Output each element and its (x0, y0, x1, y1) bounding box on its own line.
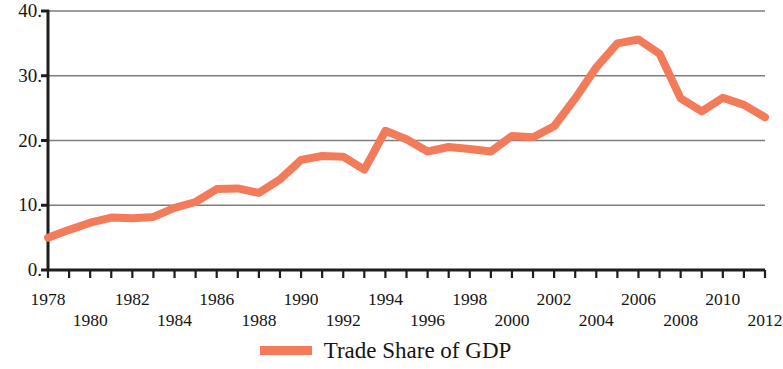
x-axis-label-1978: 1978 (31, 291, 66, 309)
x-axis-label-2006: 2006 (621, 291, 656, 309)
x-axis-label-2002: 2002 (537, 291, 572, 309)
x-axis-label-2012: 2012 (748, 312, 783, 330)
x-axis-label-2000: 2000 (494, 312, 529, 330)
x-axis-label-1992: 1992 (326, 312, 361, 330)
x-axis-label-1984: 1984 (157, 312, 192, 330)
x-axis-label-1980: 1980 (73, 312, 108, 330)
x-axis-label-2010: 2010 (705, 291, 740, 309)
x-axis-label-1996: 1996 (410, 312, 445, 330)
x-axis-label-1982: 1982 (115, 291, 150, 309)
y-axis-label-40: 40. (0, 1, 42, 20)
x-axis-label-1986: 1986 (199, 291, 234, 309)
x-axis-label-2008: 2008 (663, 312, 698, 330)
x-axis-label-1994: 1994 (368, 291, 403, 309)
legend-label-trade-share: Trade Share of GDP (324, 339, 512, 362)
x-axis-label-1990: 1990 (284, 291, 319, 309)
gridlines-group (48, 11, 765, 205)
legend-swatch-trade-share (260, 346, 312, 355)
series-line-trade-share (48, 39, 765, 237)
x-axis-label-1998: 1998 (452, 291, 487, 309)
y-axis-label-0: 0. (0, 260, 42, 279)
y-axis-label-10: 10. (0, 195, 42, 214)
y-axis-label-20: 20. (0, 131, 42, 150)
chart-legend: Trade Share of GDP (0, 339, 771, 362)
x-axis-label-1988: 1988 (241, 312, 276, 330)
y-axis-label-30: 30. (0, 66, 42, 85)
x-axis-label-2004: 2004 (579, 312, 614, 330)
